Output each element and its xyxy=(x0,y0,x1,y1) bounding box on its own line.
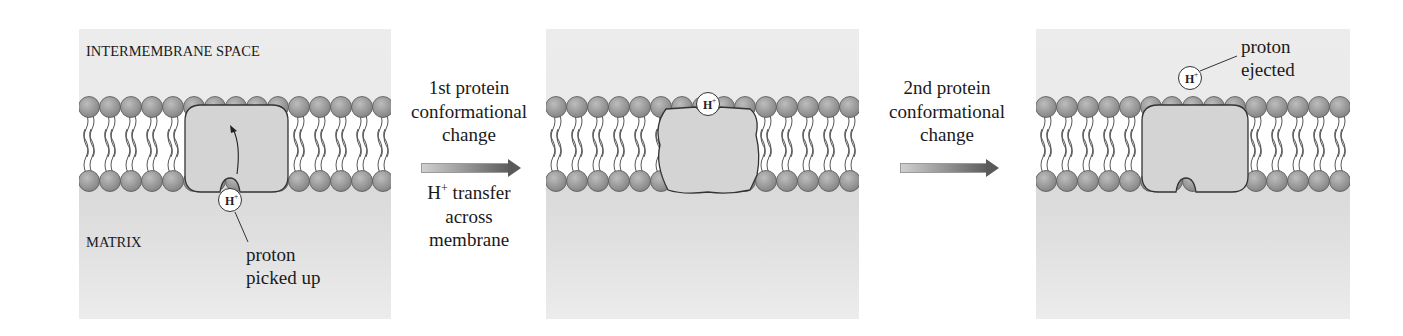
step-2-line-3: change xyxy=(872,123,1022,147)
panel-proton-pickup: H+ INTERMEMBRANE SPACE MATRIX proton pic… xyxy=(79,29,391,319)
step-1-line-2: conformational xyxy=(398,100,540,124)
proton-icon: H+ xyxy=(219,189,242,212)
callout-line-2: ejected xyxy=(1241,58,1295,81)
h-transfer-line: H+ transfer xyxy=(398,181,540,205)
step-1-line-3: change xyxy=(398,123,540,147)
membrane-diagram: H+ xyxy=(1036,29,1350,319)
proton-icon: H+ xyxy=(1179,67,1202,90)
step-1-caption: 1st protein conformational change xyxy=(398,76,540,147)
callout-line-2: picked up xyxy=(246,266,320,289)
step-2-arrow-icon xyxy=(900,159,999,177)
proton-picked-up-callout: proton picked up xyxy=(246,243,320,289)
step-1-arrow-icon xyxy=(421,159,521,177)
step-1-subcaption: H+ transfer across membrane xyxy=(398,181,540,252)
step-1-line-1: 1st protein xyxy=(398,76,540,100)
callout-line-1: proton xyxy=(246,243,320,266)
across-line: across xyxy=(398,205,540,229)
membrane-diagram: H+ xyxy=(79,29,391,319)
membrane-diagram: H+ xyxy=(546,29,859,319)
panel-proton-ejection: H+ proton ejected xyxy=(1036,29,1350,319)
proton-icon: H+ xyxy=(697,93,720,116)
panel-proton-transfer: H+ xyxy=(546,29,859,319)
svg-text:+: + xyxy=(234,192,238,201)
membrane-line: membrane xyxy=(398,228,540,252)
proton-ejected-callout: proton ejected xyxy=(1241,35,1295,81)
svg-text:+: + xyxy=(712,96,716,105)
intermembrane-space-label: INTERMEMBRANE SPACE xyxy=(86,43,260,60)
svg-text:+: + xyxy=(1194,70,1198,79)
matrix-label: MATRIX xyxy=(86,234,142,251)
step-2-line-2: conformational xyxy=(872,100,1022,124)
step-2-caption: 2nd protein conformational change xyxy=(872,76,1022,147)
callout-line-1: proton xyxy=(1241,35,1295,58)
step-2-line-1: 2nd protein xyxy=(872,76,1022,100)
